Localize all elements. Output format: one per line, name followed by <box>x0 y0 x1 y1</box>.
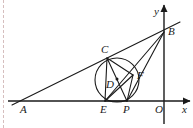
point-label-f: F <box>137 70 144 81</box>
point-label-a: A <box>20 104 27 115</box>
segments-group <box>12 22 180 105</box>
segment-B-to-P <box>127 32 164 101</box>
figure-canvas <box>0 0 193 128</box>
point-label-d: D <box>106 79 114 90</box>
point-label-c: C <box>101 44 108 55</box>
line-A-to-B-through-C <box>12 22 180 105</box>
point-label-p: P <box>123 104 130 115</box>
x-axis-label: x <box>182 104 187 115</box>
y-axis-label: y <box>154 6 159 17</box>
point-dot-d <box>116 78 119 81</box>
origin-label: O <box>155 104 163 115</box>
point-label-e: E <box>100 104 107 115</box>
point-dots-group <box>116 78 119 81</box>
geometry-figure: x y O ABCDEFP <box>0 0 193 128</box>
point-label-b: B <box>168 26 175 37</box>
